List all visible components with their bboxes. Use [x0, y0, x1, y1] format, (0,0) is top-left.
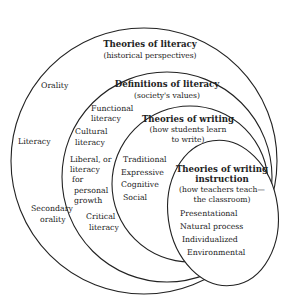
inner-subtitle-1: (how teachers teach— — [179, 185, 265, 194]
second-item-liberal-4: personal — [74, 186, 109, 195]
second-item-cultural-2: literacy — [75, 138, 105, 147]
inner-item-presentational: Presentational — [180, 209, 238, 218]
third-item-social: Social — [123, 193, 148, 202]
second-item-critical-2: literacy — [89, 223, 119, 232]
third-item-expressive: Expressive — [121, 168, 164, 177]
third-item-cognitive: Cognitive — [121, 180, 159, 189]
second-subtitle: (society's values) — [134, 91, 200, 100]
literacy-nested-diagram: Theories of literacy (historical perspec… — [0, 0, 288, 298]
second-item-cultural: Cultural — [75, 127, 108, 136]
inner-title-1: Theories of writing — [176, 164, 268, 174]
second-item-critical: Critical — [86, 212, 116, 221]
outer-item-orality-2: orality — [40, 215, 66, 224]
second-item-liberal-5: growth — [74, 196, 102, 205]
inner-subtitle-2: the classroom) — [194, 195, 251, 204]
second-item-liberal-3: for — [72, 175, 84, 184]
third-item-traditional: Traditional — [123, 155, 167, 164]
inner-title-2: instruction — [195, 174, 249, 184]
outer-item-orality: Orality — [41, 81, 69, 90]
second-item-functional-2: literacy — [91, 114, 121, 123]
third-subtitle-1: (how students learn — [150, 125, 227, 134]
second-item-functional: Functional — [91, 104, 134, 113]
second-title: Definitions of literacy — [115, 79, 220, 89]
outer-item-secondary: Secondary — [31, 204, 73, 213]
inner-item-individualized: Individualized — [182, 235, 238, 244]
second-item-liberal-2: literacy — [70, 165, 100, 174]
second-item-liberal: Liberal, or — [70, 155, 112, 164]
outer-item-literacy: Literacy — [18, 137, 51, 146]
third-title: Theories of writing — [142, 114, 234, 124]
outer-subtitle: (historical perspectives) — [103, 51, 196, 60]
third-subtitle-2: to write) — [171, 135, 204, 144]
inner-item-environmental: Environmental — [187, 248, 246, 257]
outer-title: Theories of literacy — [103, 39, 198, 49]
inner-item-natural-process: Natural process — [180, 222, 243, 231]
